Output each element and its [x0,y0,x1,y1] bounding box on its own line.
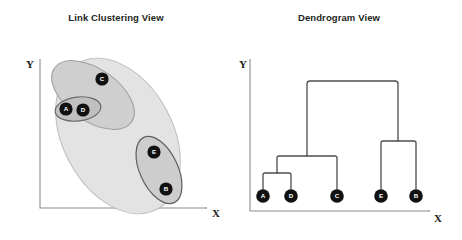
dendrogram-node-c: C [330,189,344,203]
node-label: C [100,75,105,82]
node-label: D [289,192,294,199]
link-clustering-node-c: C [95,72,108,85]
link-clustering-axis-endcap [205,207,207,209]
node-label: B [414,192,419,199]
link-clustering-x-axis-label: X [212,207,220,219]
node-label: E [152,148,156,155]
node-label: D [81,106,86,113]
dendrogram-node-b: B [409,189,423,203]
dendrogram-node-a: A [256,189,270,203]
link-clustering-node-b: B [159,182,172,195]
link-clustering-title: Link Clustering View [68,12,164,23]
dendrogram-y-axis-label: Y [239,58,247,70]
two-panel-clustering-figure: Link Clustering View Y X A D C E [0,0,462,240]
node-label: E [379,192,383,199]
dendrogram-merge-a-d [263,173,291,189]
link-clustering-node-a: A [59,102,72,115]
link-clustering-node-e: E [147,145,160,158]
node-label: A [64,105,69,112]
dendrogram-title: Dendrogram View [298,12,381,23]
dendrogram-x-axis-label: X [434,212,442,224]
link-clustering-y-axis-label: Y [26,58,34,70]
panel-link-clustering: Link Clustering View Y X A D C E [26,12,220,235]
dendrogram-axis-endcap [428,210,430,212]
panel-dendrogram: Dendrogram View Y X A D C E [239,12,442,224]
link-clustering-node-d: D [76,103,89,116]
dendrogram-node-e: E [374,189,388,203]
node-label: B [164,185,169,192]
node-label: C [335,192,340,199]
dendrogram-axes [250,59,428,211]
dendrogram-node-d: D [284,189,298,203]
dendrogram-merge-e-b [381,141,416,189]
node-label: A [261,192,266,199]
dendrogram-merge-root [307,81,398,156]
